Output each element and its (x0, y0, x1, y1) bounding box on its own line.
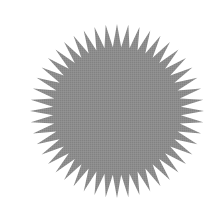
starburst-polygon (30, 24, 204, 198)
starburst-shape (0, 0, 220, 220)
canvas (0, 0, 220, 220)
